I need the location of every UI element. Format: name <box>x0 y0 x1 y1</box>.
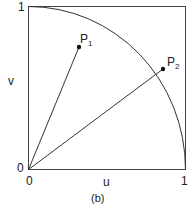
point-p2-label: P2 <box>167 56 179 71</box>
y-tick-max: 1 <box>18 1 25 13</box>
x-tick-min: 0 <box>26 175 33 187</box>
figure-caption: (b) <box>91 193 104 204</box>
point-p1-label: P1 <box>80 33 92 48</box>
unit-square <box>29 7 186 170</box>
x-axis-label: u <box>103 176 110 188</box>
quarter-circle-arc <box>29 7 186 170</box>
point-p2 <box>161 67 165 71</box>
y-tick-min: 0 <box>17 162 24 174</box>
y-axis-label: v <box>8 75 14 87</box>
x-tick-max: 1 <box>181 175 188 187</box>
